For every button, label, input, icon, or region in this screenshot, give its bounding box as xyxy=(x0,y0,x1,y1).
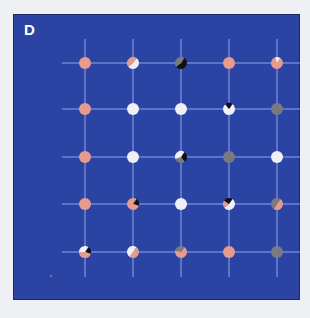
dot-r0-c0 xyxy=(79,57,91,69)
dot-r0-c2 xyxy=(175,57,187,69)
stray-speck xyxy=(50,275,52,277)
dot-r1-c0 xyxy=(79,103,91,115)
dot-r1-c2 xyxy=(175,103,187,115)
dot-r0-c3 xyxy=(223,57,235,69)
dot-r3-c1 xyxy=(127,198,139,210)
dot-r4-c0 xyxy=(79,246,91,258)
dot-r2-c4 xyxy=(271,151,283,163)
dot-r2-c3 xyxy=(223,151,235,163)
dot-r2-c0 xyxy=(79,151,91,163)
dot-r4-c4 xyxy=(271,246,283,258)
dot-r1-c4 xyxy=(271,103,283,115)
dot-r3-c0 xyxy=(79,198,91,210)
dot-r3-c3 xyxy=(223,198,235,210)
dot-r2-c2 xyxy=(175,151,187,163)
dot-r4-c3 xyxy=(223,246,235,258)
dot-r1-c3 xyxy=(223,103,235,115)
dot-r4-c2 xyxy=(175,246,187,258)
dot-r0-c1 xyxy=(127,57,139,69)
dot-r3-c4 xyxy=(271,198,283,210)
dot-r3-c2 xyxy=(175,198,187,210)
dot-r4-c1 xyxy=(127,246,139,258)
dot-r1-c1 xyxy=(127,103,139,115)
dot-r2-c1 xyxy=(127,151,139,163)
dot-grid xyxy=(14,15,301,301)
dot-r0-c4 xyxy=(271,57,283,69)
figure-panel: D xyxy=(13,14,300,300)
